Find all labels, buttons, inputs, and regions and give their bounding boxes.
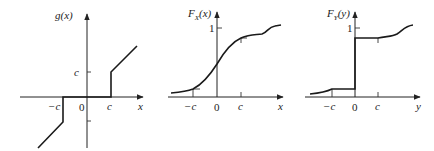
tick-label-one: 1	[347, 22, 353, 34]
tick-label-c: c	[375, 100, 380, 112]
tick-label-c-y: c	[74, 66, 79, 78]
panel-Fy: FY(y) 1 −c 0 c y	[305, 7, 421, 113]
tick-label-zero: 0	[352, 101, 358, 113]
tick-label-zero: 0	[214, 101, 220, 113]
tick-label-c: c	[107, 100, 112, 112]
tick-label-one: 1	[209, 22, 215, 34]
xlabel-g: x	[137, 100, 143, 112]
tick-label-neg-c: −c	[184, 100, 196, 112]
xlabel-Fy: y	[415, 100, 421, 112]
xlabel-Fx: x	[277, 100, 283, 112]
Fy-curve	[310, 25, 413, 94]
ylabel-g: g(x)	[55, 9, 73, 22]
tick-label-c: c	[238, 100, 243, 112]
panel-g: g(x) c −c 0 c x	[20, 9, 143, 148]
panel-Fx: FX(x) 1 −c 0 c x	[168, 7, 283, 113]
ylabel-Fy: FY(y)	[326, 7, 350, 22]
tick-label-zero: 0	[79, 101, 85, 113]
ylabel-Fx: FX(x)	[187, 7, 212, 22]
tick-label-neg-c: −c	[323, 100, 335, 112]
tick-label-neg-c: −c	[48, 100, 60, 112]
figure: g(x) c −c 0 c x FX(x) 1 −c 0 c x FY(y) 1…	[0, 0, 434, 151]
Fx-curve	[171, 25, 281, 93]
